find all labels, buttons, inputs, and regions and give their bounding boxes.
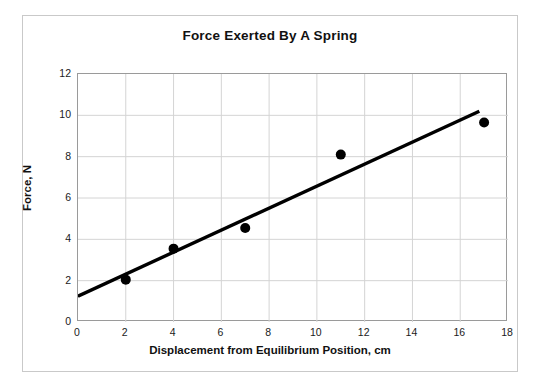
data-point-marker bbox=[121, 275, 131, 285]
plot-canvas bbox=[78, 74, 508, 322]
x-axis-tick-label: 2 bbox=[110, 326, 140, 338]
x-axis-tick-label: 6 bbox=[205, 326, 235, 338]
plot-area bbox=[77, 73, 507, 321]
x-axis-tick-labels: 024681012141618 bbox=[77, 326, 507, 342]
trendline-segment bbox=[78, 111, 479, 296]
y-axis-tick-label: 10 bbox=[45, 108, 71, 120]
data-point-marker bbox=[169, 244, 179, 254]
trendline bbox=[78, 111, 479, 296]
y-axis-title: Force, N bbox=[21, 128, 33, 248]
y-axis-tick-label: 8 bbox=[45, 150, 71, 162]
y-axis-tick-label: 2 bbox=[45, 274, 71, 286]
data-points bbox=[121, 118, 489, 285]
x-axis-tick-label: 18 bbox=[492, 326, 522, 338]
x-axis-tick-label: 14 bbox=[396, 326, 426, 338]
x-axis-tick-label: 8 bbox=[253, 326, 283, 338]
x-axis-tick-label: 16 bbox=[444, 326, 474, 338]
data-point-marker bbox=[479, 118, 489, 128]
x-axis-tick-label: 10 bbox=[301, 326, 331, 338]
data-point-marker bbox=[240, 223, 250, 233]
y-axis-tick-label: 4 bbox=[45, 232, 71, 244]
data-point-marker bbox=[336, 150, 346, 160]
chart-figure: Force Exerted By A Spring 024681012 0246… bbox=[0, 0, 544, 391]
chart-title: Force Exerted By A Spring bbox=[22, 28, 518, 43]
y-axis-tick-labels: 024681012 bbox=[43, 73, 71, 321]
x-axis-title: Displacement from Equilibrium Position, … bbox=[22, 344, 518, 356]
y-axis-tick-label: 12 bbox=[45, 67, 71, 79]
x-axis-tick-label: 0 bbox=[62, 326, 92, 338]
x-axis-tick-label: 4 bbox=[158, 326, 188, 338]
y-axis-tick-label: 6 bbox=[45, 191, 71, 203]
x-axis-tick-label: 12 bbox=[349, 326, 379, 338]
